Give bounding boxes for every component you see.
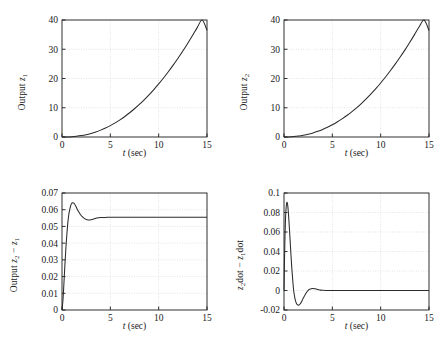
chart-panel-output-z2: 010203040051015 Output z2 t (sec)	[222, 0, 444, 172]
y-tick-label: 40	[271, 15, 281, 25]
gridlines-panel-2	[284, 20, 429, 137]
x-axis-label-panel-2: t (sec)	[284, 148, 429, 158]
plot-svg-panel-3: 00.010.020.030.040.050.060.07051015	[0, 173, 222, 345]
y-tick-label: 0	[275, 286, 280, 296]
tick-marks-panel-3	[62, 193, 207, 310]
figure-container: 010203040051015 Output z1 t (sec) 010203…	[0, 0, 444, 345]
y-tick-label: -0.02	[260, 305, 280, 315]
y-tick-label: 0.04	[263, 247, 280, 257]
plot-svg-panel-2: 010203040051015	[222, 0, 444, 172]
y-tick-label: 0.06	[41, 205, 58, 215]
y-tick-label: 0	[53, 132, 58, 142]
gridlines-panel-4	[284, 193, 429, 310]
gridlines-panel-1	[62, 20, 207, 137]
tick-labels-panel-3: 00.010.020.030.040.050.060.07051015	[41, 188, 212, 323]
gridlines-panel-3	[62, 193, 207, 310]
y-tick-label: 0.03	[41, 255, 58, 265]
y-tick-label: 10	[271, 103, 281, 113]
y-axis-label-panel-4: z2dot − z1dot	[232, 179, 248, 345]
tick-labels-panel-2: 010203040051015	[271, 15, 435, 150]
y-tick-label: 30	[271, 45, 281, 55]
y-tick-label: 0	[275, 132, 280, 142]
axes-frame-panel-3	[62, 193, 207, 310]
y-axis-label-panel-3: Output z2 − z1	[6, 179, 22, 345]
tick-labels-panel-1: 010203040051015	[49, 15, 213, 150]
y-tick-label: 0.02	[263, 266, 280, 276]
y-tick-label: 0.06	[263, 227, 280, 237]
x-axis-label-panel-4: t (sec)	[284, 321, 429, 331]
y-tick-label: 0.04	[41, 239, 58, 249]
data-line-panel-3	[62, 203, 207, 310]
x-axis-label-panel-1: t (sec)	[62, 148, 207, 158]
y-tick-label: 0.05	[41, 222, 58, 232]
plot-svg-panel-1: 010203040051015	[0, 0, 222, 172]
y-tick-label: 10	[49, 103, 59, 113]
y-tick-label: 0.1	[268, 188, 280, 198]
y-tick-label: 0	[53, 305, 58, 315]
y-axis-label-panel-1: Output z1	[14, 6, 30, 178]
chart-panel-output-z2-minus-z1: 00.010.020.030.040.050.060.07051015 Outp…	[0, 173, 222, 345]
data-line-panel-4	[284, 202, 429, 305]
y-tick-label: 20	[49, 74, 59, 84]
chart-panel-output-z1: 010203040051015 Output z1 t (sec)	[0, 0, 222, 172]
y-tick-label: 20	[271, 74, 281, 84]
y-tick-label: 30	[49, 45, 59, 55]
y-axis-label-panel-2: Output z2	[236, 6, 252, 178]
x-axis-label-panel-3: t (sec)	[62, 321, 207, 331]
plot-svg-panel-4: -0.0200.020.040.060.080.1051015	[222, 173, 444, 345]
y-tick-label: 0.01	[41, 289, 58, 299]
chart-panel-z2dot-minus-z1dot: -0.0200.020.040.060.080.1051015 z2dot − …	[222, 173, 444, 345]
y-tick-label: 0.07	[41, 188, 58, 198]
y-tick-label: 40	[49, 15, 59, 25]
y-tick-label: 0.08	[263, 208, 280, 218]
y-tick-label: 0.02	[41, 272, 58, 282]
